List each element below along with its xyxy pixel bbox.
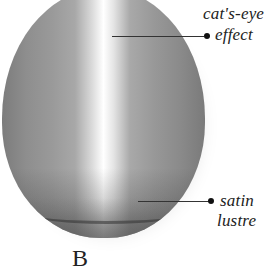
stone-rim: [22, 199, 191, 224]
cats-eye-leader-line: [112, 36, 204, 37]
satin-lustre-leader-line: [138, 201, 210, 202]
satin-lustre-label-line2: lustre: [217, 211, 256, 231]
caption-partial-letter: B: [72, 246, 88, 270]
cats-eye-label-line1: cat's-eye: [203, 4, 264, 24]
cats-eye-label-line2: effect: [215, 25, 253, 45]
cats-eye-leader-dot: [204, 33, 210, 39]
satin-lustre-label-line1: satin: [220, 191, 254, 211]
satin-lustre-leader-dot: [208, 198, 214, 204]
